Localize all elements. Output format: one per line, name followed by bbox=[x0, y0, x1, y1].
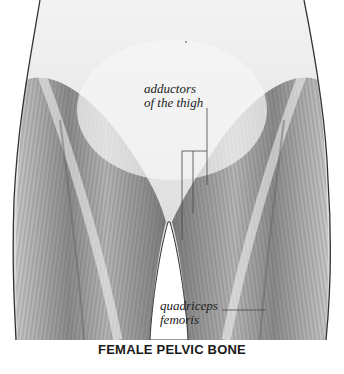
figure-caption: FEMALE PELVIC BONE bbox=[0, 342, 344, 357]
adductors-label-line1: adductors bbox=[144, 82, 203, 96]
quadriceps-label-line2: femoris bbox=[160, 313, 218, 327]
quadriceps-label: quadriceps femoris bbox=[160, 299, 218, 327]
adductors-label: adductors of the thigh bbox=[144, 82, 203, 110]
adductors-label-line2: of the thigh bbox=[144, 96, 203, 110]
anatomy-illustration bbox=[0, 0, 344, 340]
quadriceps-label-line1: quadriceps bbox=[160, 299, 218, 313]
